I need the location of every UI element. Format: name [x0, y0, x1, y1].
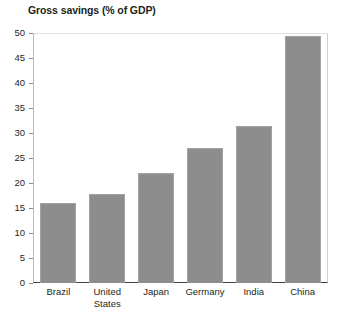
y-axis-tick-label: 10 — [14, 226, 25, 239]
bar — [236, 126, 272, 283]
y-axis-tick-mark — [29, 283, 33, 284]
x-axis-labels: BrazilUnitedStatesJapanGermanyIndiaChina — [34, 286, 327, 319]
bar — [187, 148, 223, 283]
y-axis-tick-label: 35 — [14, 101, 25, 114]
y-axis: 05101520253035404550 — [0, 33, 33, 283]
bar — [138, 173, 174, 283]
x-axis-label-line: United — [83, 286, 132, 298]
bar — [285, 36, 321, 283]
y-axis-tick-label: 0 — [20, 276, 25, 289]
x-axis-label: Brazil — [34, 286, 83, 298]
y-axis-tick-label: 30 — [14, 126, 25, 139]
x-axis-label-line: Brazil — [34, 286, 83, 298]
bar-chart: Gross savings (% of GDP) 051015202530354… — [0, 0, 349, 319]
x-axis-label: China — [278, 286, 327, 298]
x-axis-label: India — [229, 286, 278, 298]
bar — [40, 203, 76, 283]
bar-slot — [278, 33, 327, 283]
y-axis-tick-label: 25 — [14, 151, 25, 164]
bar-slot — [83, 33, 132, 283]
x-axis-label: UnitedStates — [83, 286, 132, 309]
y-axis-tick-label: 50 — [14, 26, 25, 39]
bars-layer — [34, 33, 327, 283]
x-axis-label: Germany — [181, 286, 230, 298]
y-axis-tick-label: 40 — [14, 76, 25, 89]
x-axis-label-line: Japan — [132, 286, 181, 298]
x-axis-label-line: China — [278, 286, 327, 298]
x-axis-label-line: India — [229, 286, 278, 298]
bar-slot — [181, 33, 230, 283]
x-axis-label-line: Germany — [181, 286, 230, 298]
bar-slot — [132, 33, 181, 283]
y-axis-tick-label: 15 — [14, 201, 25, 214]
x-axis-label: Japan — [132, 286, 181, 298]
y-axis-tick-label: 20 — [14, 176, 25, 189]
y-axis-tick-label: 45 — [14, 51, 25, 64]
x-axis-label-line: States — [83, 298, 132, 310]
y-axis-tick-label: 5 — [20, 251, 25, 264]
bar-slot — [34, 33, 83, 283]
bar — [89, 194, 125, 284]
chart-title: Gross savings (% of GDP) — [28, 4, 156, 17]
bar-slot — [229, 33, 278, 283]
